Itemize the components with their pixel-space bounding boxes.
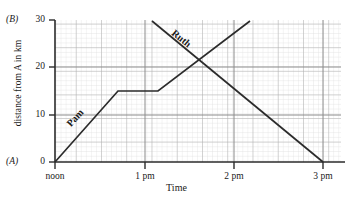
distance-time-chart: distance from A in km (B) (A) 30 20 10 0… xyxy=(0,0,353,202)
y-axis-title: distance from A in km xyxy=(13,18,23,148)
x-axis-ticks xyxy=(55,162,323,169)
y-axis-ticks xyxy=(49,20,55,162)
y-tick-30: 30 xyxy=(5,15,45,25)
x-axis-title: Time xyxy=(0,182,353,193)
x-tick-3pm: 3 pm xyxy=(313,172,332,182)
y-tick-20: 20 xyxy=(5,62,45,72)
y-tick-10: 10 xyxy=(5,110,45,120)
y-tick-0: 0 xyxy=(5,157,45,167)
x-tick-2pm: 2 pm xyxy=(224,172,243,182)
x-tick-noon: noon xyxy=(46,172,65,182)
x-tick-1pm: 1 pm xyxy=(135,172,154,182)
